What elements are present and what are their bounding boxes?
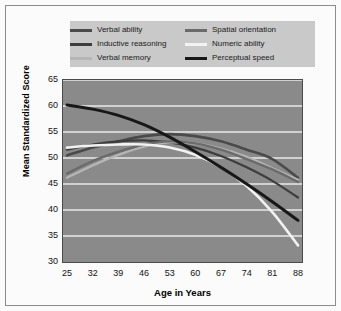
y-tick-label: 50 [32,153,58,162]
legend-item-verbal-ability: Verbal ability [70,23,185,37]
x-axis-ticks: 25323946536067748188 [0,269,341,283]
y-axis-ticks: 3035404550556065 [28,0,58,311]
x-axis-label: Age in Years [62,287,303,298]
y-tick-label: 35 [32,231,58,240]
x-tick-label: 74 [235,269,259,278]
y-tick-label: 60 [32,101,58,110]
y-tick-label: 45 [32,179,58,188]
x-tick-label: 67 [209,269,233,278]
legend-item-numeric-ability: Numeric ability [185,37,315,51]
x-tick-label: 60 [183,269,207,278]
legend-swatch-inductive-reasoning [70,43,92,46]
x-tick-label: 81 [260,269,284,278]
y-tick-label: 65 [32,75,58,84]
legend-label-spatial-orientation: Spatial orientation [212,26,276,34]
legend-item-spatial-orientation: Spatial orientation [185,23,315,37]
plot-area [62,79,303,263]
x-tick-label: 39 [106,269,130,278]
legend-item-perceptual-speed: Perceptual speed [185,51,315,65]
legend-label-perceptual-speed: Perceptual speed [212,54,274,62]
x-tick-label: 32 [81,269,105,278]
legend-label-numeric-ability: Numeric ability [212,40,264,48]
legend-swatch-verbal-ability [70,29,92,32]
legend-label-verbal-memory: Verbal memory [97,54,151,62]
legend-swatch-verbal-memory [70,57,92,60]
y-tick-label: 40 [32,205,58,214]
x-tick-label: 25 [55,269,79,278]
chart-lines [63,80,302,262]
legend-swatch-perceptual-speed [185,57,207,60]
legend-item-verbal-memory: Verbal memory [70,51,185,65]
legend-item-inductive-reasoning: Inductive reasoning [70,37,185,51]
legend-label-inductive-reasoning: Inductive reasoning [97,40,166,48]
y-axis-label: Mean Standardized Score [21,41,31,201]
legend-swatch-numeric-ability [185,43,207,46]
x-tick-label: 88 [286,269,310,278]
figure: Verbal ability Spatial orientation Induc… [0,0,341,311]
x-tick-label: 46 [132,269,156,278]
y-tick-label: 30 [32,257,58,266]
series-line [67,140,298,197]
y-tick-label: 55 [32,127,58,136]
x-tick-label: 53 [158,269,182,278]
chart-legend: Verbal ability Spatial orientation Induc… [70,21,315,67]
legend-label-verbal-ability: Verbal ability [97,26,142,34]
legend-swatch-spatial-orientation [185,29,207,32]
series-line [67,142,298,180]
